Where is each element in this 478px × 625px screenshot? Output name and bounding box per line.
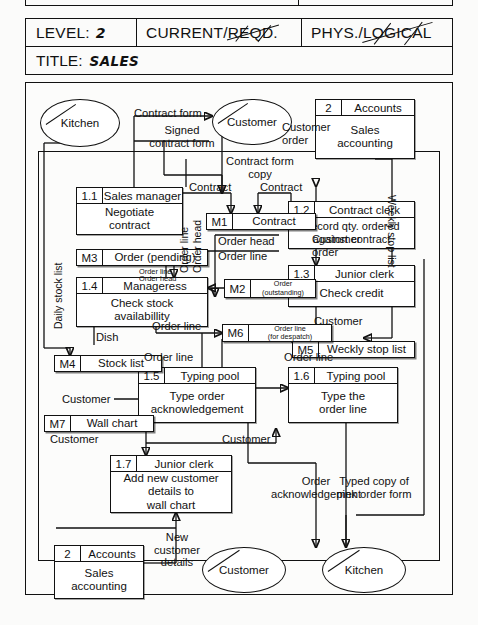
flow-label-contract-form-copy: Contract form copy [210,155,310,180]
form-header: LEVEL: 2 CURRENT/ REQD. PHYS./ LOGICAL T… [25,18,453,75]
level-value: 2 [96,25,106,41]
external-kitchen-top: Kitchen [40,99,120,147]
store-m7-name: Wall chart [71,416,153,431]
process-1-7-header: 1.7 Junior clerk [111,456,231,472]
flow-label-customer-4: Customer [222,433,271,446]
flow-label-order-head-small: Order head [139,275,176,283]
process-1-1-body: Negotiate contract [77,204,182,234]
process-1-6-who: Typing pool [315,370,397,382]
process-1-6-header: 1.6 Typing pool [289,368,397,384]
flow-label-order-line-2: Order line [152,320,201,333]
store-m3-id: M3 [77,250,103,265]
flow-label-customer-order-mid: Customer order [312,233,372,258]
process-1-5-who: Typing pool [165,370,255,382]
external-customer-bottom-label: Customer [219,564,269,576]
store-m6-name-line2: (for despatch) [268,333,312,341]
store-m1-id: M1 [207,214,233,229]
process-1-6-id: 1.6 [289,368,315,383]
title-value: SALES [90,53,140,69]
node-accounts-bottom-body: Sales accounting [55,562,143,598]
current-required-cell: CURRENT/ REQD. [136,19,311,46]
process-1-7-body: Add new customer details to wall chart [111,472,231,512]
header-cutoff-row [25,0,453,6]
process-1-3-who: Junior clerk [315,268,414,280]
flow-label-order-head-vertical: Order head [191,220,203,273]
flow-label-customer-1: Customer [62,393,111,406]
flow-label-contract-b: Contract [260,181,302,194]
phys-logical-label: PHYS./ [311,24,363,42]
flow-label-weekly-stop-list: Weekly stop list [386,195,398,268]
form-header-row-1: LEVEL: 2 CURRENT/ REQD. PHYS./ LOGICAL [26,19,452,47]
store-m4-id: M4 [55,356,81,371]
process-1-7-who: Junior clerk [137,458,231,470]
flow-label-contract-form: Contract form [134,107,202,120]
flow-label-customer-2: Customer [314,315,363,328]
process-1-7[interactable]: 1.7 Junior clerk Add new customer detail… [110,455,232,513]
store-m2-id: M2 [225,280,251,297]
logical-struck: LOGICAL [363,24,432,42]
store-m2-name-line2: (outstanding) [262,289,304,297]
flow-label-dish: Dish [96,331,118,344]
external-kitchen-bottom: Kitchen [322,547,406,593]
level-label: LEVEL: [36,24,90,42]
node-accounts-bottom-id: 2 [55,546,81,561]
process-1-7-id: 1.7 [111,456,137,471]
flow-label-customer-order-top: Customer order [282,121,338,146]
store-m7[interactable]: M7 Wall chart [44,415,154,432]
process-1-6[interactable]: 1.6 Typing pool Type the order line [288,367,398,423]
node-accounts-top-who: Accounts [342,102,414,114]
store-m2[interactable]: M2 Order (outstanding) [224,279,316,298]
store-m1[interactable]: M1 Contract [206,213,316,230]
store-m6-id: M6 [223,325,249,341]
flow-label-daily-stock-list: Daily stock list [52,262,64,329]
process-1-4-id: 1.4 [77,278,103,293]
diagram-frame: Kitchen Customer Customer Kitchen 2 Acco… [25,82,453,595]
node-accounts-top-header: 2 Accounts [316,100,414,116]
store-m2-name: Order (outstanding) [251,280,315,297]
node-accounts-top-id: 2 [316,100,342,115]
store-m1-name: Contract [233,214,315,229]
process-1-1[interactable]: 1.1 Sales manager Negotiate contract [76,187,183,235]
process-1-1-id: 1.1 [77,188,103,203]
flow-label-typed-copy: Typed copy of pink order form [312,475,436,500]
flow-label-signed-contract-form: Signed contract form [136,124,228,149]
external-customer-bottom: Customer [202,547,286,593]
process-1-1-header: 1.1 Sales manager [77,188,182,204]
node-accounts-bottom-who: Accounts [81,548,143,560]
required-struck: REQD. [228,24,278,42]
flow-label-new-customer-details: New customer details [144,531,210,569]
node-accounts-bottom[interactable]: 2 Accounts Sales accounting [54,545,144,599]
process-1-5-body: Type order acknowledgement [139,384,255,422]
phys-logical-cell: PHYS./ LOGICAL [301,19,452,46]
flow-label-order-line-1: Order line [218,250,267,263]
store-m7-id: M7 [45,416,71,431]
process-1-1-who: Sales manager [103,190,182,202]
level-cell: LEVEL: 2 [26,19,146,46]
flow-label-order-line-4: Order line [284,351,333,364]
flow-label-order-line-3: Order line [144,351,193,364]
process-1-6-body: Type the order line [289,384,397,422]
flow-label-customer-3: Customer [50,433,99,446]
current-required-label: CURRENT/ [146,24,228,42]
store-m5-name: Weckly stop list [319,342,414,357]
flow-label-order-line-vertical: Order line [178,227,190,273]
external-kitchen-bottom-label: Kitchen [345,564,383,576]
flow-label-contract-a: Contract [189,181,231,194]
diagram-page: LEVEL: 2 CURRENT/ REQD. PHYS./ LOGICAL T… [0,0,478,625]
process-1-5[interactable]: 1.5 Typing pool Type order acknowledgeme… [138,367,256,423]
title-label: TITLE: [36,52,83,70]
process-1-2-who: Contract clerk [315,204,414,216]
external-customer-top-label: Customer [227,116,277,128]
form-header-row-2: TITLE: SALES [26,47,452,74]
external-kitchen-top-label: Kitchen [61,117,99,129]
flow-label-order-head: Order head [218,235,275,248]
node-accounts-bottom-header: 2 Accounts [55,546,143,562]
